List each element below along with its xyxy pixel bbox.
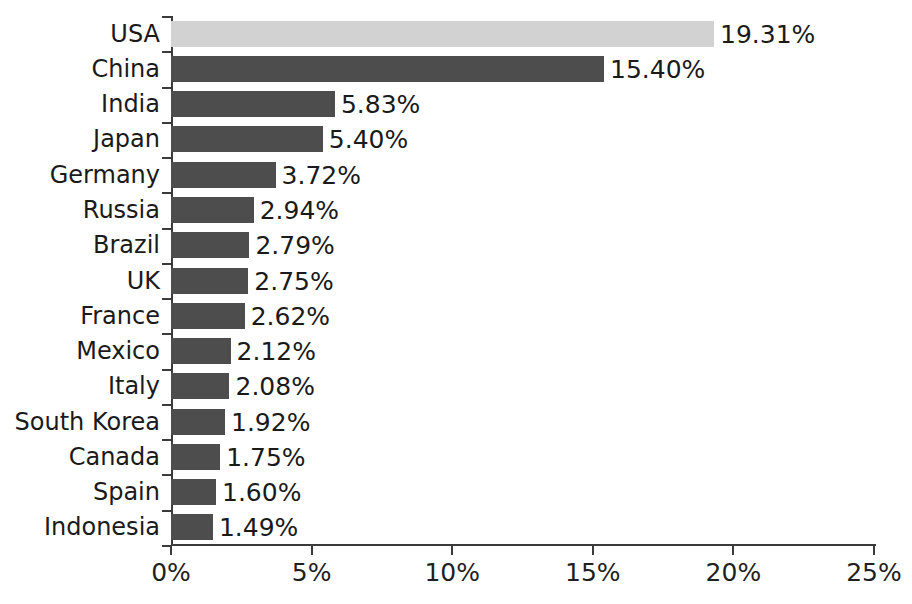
bar <box>171 197 254 223</box>
y-axis-category-label: China <box>0 55 160 83</box>
bar-value-label: 1.75% <box>226 442 305 471</box>
x-axis-tick <box>451 545 453 555</box>
bar-value-label: 3.72% <box>282 160 361 189</box>
x-axis-tick-label: 20% <box>706 558 762 587</box>
y-axis-category-label: France <box>0 302 160 330</box>
x-axis-tick-label: 15% <box>565 558 621 587</box>
x-axis-tick <box>170 545 172 555</box>
bar <box>171 338 231 364</box>
bar <box>171 444 220 470</box>
bar <box>171 126 323 152</box>
bar-value-label: 1.60% <box>222 478 301 507</box>
chart-title-clipped: Share of Global ... (partially cut off) <box>0 0 912 8</box>
bar-chart: Share of Global ... (partially cut off) … <box>0 0 912 604</box>
y-axis-category-label: Indonesia <box>0 513 160 541</box>
x-axis-tick-label: 0% <box>151 558 191 587</box>
y-axis-tick <box>162 51 171 53</box>
y-axis-category-label: Russia <box>0 196 160 224</box>
y-axis-tick <box>162 333 171 335</box>
x-axis-tick <box>592 545 594 555</box>
x-axis-tick <box>873 545 875 555</box>
bar <box>171 303 245 329</box>
y-axis-tick <box>162 16 171 18</box>
bar-value-label: 19.31% <box>720 19 815 48</box>
bar <box>171 514 213 540</box>
y-axis-category-label: Canada <box>0 443 160 471</box>
bar <box>171 232 249 258</box>
bar <box>171 21 714 47</box>
y-axis-category-label: Brazil <box>0 231 160 259</box>
bar-value-label: 2.08% <box>235 372 314 401</box>
bar-value-label: 15.40% <box>610 54 705 83</box>
y-axis-category-label: India <box>0 90 160 118</box>
bar-value-label: 2.75% <box>254 266 333 295</box>
y-axis-tick <box>162 439 171 441</box>
bar-value-label: 2.94% <box>260 195 339 224</box>
bar <box>171 56 604 82</box>
bar <box>171 268 248 294</box>
bar-value-label: 5.40% <box>329 125 408 154</box>
y-axis-tick <box>162 228 171 230</box>
x-axis-tick-label: 5% <box>292 558 332 587</box>
y-axis-category-label: Japan <box>0 125 160 153</box>
y-axis-tick <box>162 87 171 89</box>
bar <box>171 409 225 435</box>
bar <box>171 162 276 188</box>
bar-value-label: 1.49% <box>219 513 298 542</box>
y-axis-tick <box>162 122 171 124</box>
y-axis-tick <box>162 369 171 371</box>
bar <box>171 373 229 399</box>
y-axis-tick <box>162 474 171 476</box>
bar-value-label: 5.83% <box>341 90 420 119</box>
y-axis-tick <box>162 263 171 265</box>
y-axis-category-label: Italy <box>0 372 160 400</box>
plot-area: 19.31%15.40%5.83%5.40%3.72%2.94%2.79%2.7… <box>171 16 874 545</box>
y-axis-category-label: Spain <box>0 478 160 506</box>
bar-value-label: 2.79% <box>255 231 334 260</box>
x-axis-tick <box>732 545 734 555</box>
y-axis-tick <box>162 404 171 406</box>
x-axis-tick-label: 10% <box>424 558 480 587</box>
y-axis-tick <box>162 298 171 300</box>
bar <box>171 91 335 117</box>
x-axis-tick <box>311 545 313 555</box>
bar <box>171 479 216 505</box>
bar-value-label: 2.62% <box>251 301 330 330</box>
y-axis-category-label: Germany <box>0 161 160 189</box>
y-axis-category-label: Mexico <box>0 337 160 365</box>
y-axis-category-label: South Korea <box>0 408 160 436</box>
y-axis-tick <box>162 192 171 194</box>
y-axis-tick <box>162 157 171 159</box>
x-axis-tick-label: 25% <box>846 558 902 587</box>
bar-value-label: 2.12% <box>237 337 316 366</box>
y-axis-category-label: USA <box>0 20 160 48</box>
bar-value-label: 1.92% <box>231 407 310 436</box>
y-axis-category-label: UK <box>0 267 160 295</box>
y-axis-tick <box>162 510 171 512</box>
